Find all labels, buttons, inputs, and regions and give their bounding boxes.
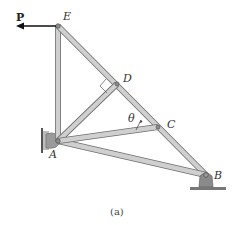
angle-label: θ xyxy=(128,112,135,125)
figure-caption: (a) xyxy=(110,206,124,217)
joint-label-e: E xyxy=(62,10,71,23)
truss-members xyxy=(58,26,206,175)
joint-label-d: D xyxy=(122,72,132,85)
joint-label-b: B xyxy=(213,169,222,182)
joint-label-c: C xyxy=(167,118,176,131)
truss-diagram: P E D C A B θ (a) xyxy=(0,0,240,225)
joint-label-a: A xyxy=(48,148,57,161)
load-label: P xyxy=(16,11,24,24)
